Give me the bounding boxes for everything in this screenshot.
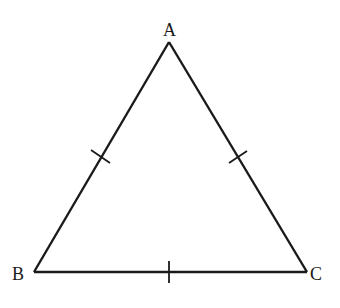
triangle-diagram: A B C: [0, 0, 340, 308]
vertex-label-c: C: [310, 265, 322, 283]
vertex-label-b: B: [12, 265, 24, 283]
tick-mark-ac: [229, 151, 247, 163]
triangle-svg: [0, 0, 340, 308]
vertex-label-a: A: [163, 21, 176, 39]
